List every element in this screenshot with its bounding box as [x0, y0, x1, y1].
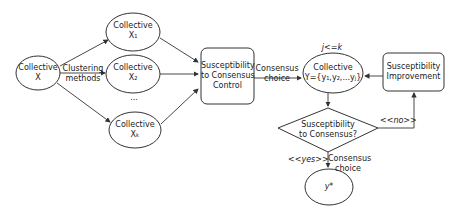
yes-label: <<yes>> — [288, 155, 326, 165]
decision-line1: Susceptibility — [288, 120, 368, 130]
susceptibility-control-line2: to Consensus — [201, 71, 254, 81]
collective-x1-line1: Collective — [106, 21, 160, 31]
edge-xk-to-control — [161, 89, 198, 124]
collective-xk-line1: Collective — [109, 120, 161, 130]
collective-xk-label: Collective Xₖ — [109, 120, 161, 140]
edge-x-to-xk — [57, 83, 110, 122]
collective-y-line1: Collective — [303, 63, 363, 73]
edge-x-to-x1 — [60, 40, 108, 66]
edge-x1-to-control — [160, 38, 198, 62]
yes-text: <<yes>> — [288, 155, 329, 164]
consensus-choice-2-line2: choice — [328, 164, 368, 174]
consensus-choice-1-line2: choice — [254, 74, 300, 84]
consensus-choice-2-line1: Consensus — [328, 154, 368, 164]
diagram-canvas — [0, 0, 463, 214]
y-star-label: y* — [310, 182, 348, 192]
decision-label: Susceptibility to Consensus? — [288, 120, 368, 140]
susceptibility-control-line3: Control — [201, 81, 254, 91]
consensus-choice-label-2: Consensus choice — [328, 154, 368, 174]
ellipsis-label: ... — [120, 93, 148, 103]
collective-x-line1: Collective — [16, 63, 60, 73]
clustering-line2: methods — [60, 74, 106, 84]
clustering-methods-label: Clustering methods — [60, 64, 106, 84]
clustering-line1: Clustering — [60, 64, 106, 74]
susceptibility-control-line1: Susceptibility — [201, 61, 254, 71]
no-text: <<no>> — [380, 116, 417, 125]
collective-x1-label: Collective X₁ — [106, 21, 160, 41]
collective-x1-line2: X₁ — [106, 31, 160, 41]
collective-y-line2: Y={y₁,y₂,...yⱼ} — [303, 73, 363, 83]
collective-x-label: Collective X — [16, 63, 60, 83]
susceptibility-improvement-label: Susceptibility Improvement — [383, 62, 444, 82]
collective-x-line2: X — [16, 73, 60, 83]
susceptibility-control-label: Susceptibility to Consensus Control — [201, 61, 254, 91]
consensus-choice-1-line1: Consensus — [254, 64, 300, 74]
susceptibility-improvement-line1: Susceptibility — [383, 62, 444, 72]
j-le-k-label: j<=k — [312, 43, 352, 53]
no-label: <<no>> — [380, 116, 414, 126]
collective-xk-line2: Xₖ — [109, 130, 161, 140]
consensus-choice-label-1: Consensus choice — [254, 64, 300, 84]
collective-y-label: Collective Y={y₁,y₂,...yⱼ} — [303, 63, 363, 83]
collective-x2-line1: Collective — [106, 63, 160, 73]
susceptibility-improvement-line2: Improvement — [383, 72, 444, 82]
collective-x2-line2: X₂ — [106, 73, 160, 83]
decision-line2: to Consensus? — [288, 130, 368, 140]
collective-x2-label: Collective X₂ — [106, 63, 160, 83]
